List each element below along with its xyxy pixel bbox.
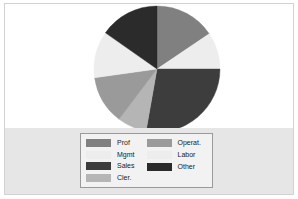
legend-item-sales: Sales (86, 162, 147, 172)
legend-swatch-prof (86, 139, 111, 147)
pie-chart-screenshot: Prof Mgmt Sales Cler. Operat. (0, 0, 298, 199)
legend-swatch-sales (86, 162, 111, 170)
legend-item-cler: Cler. (86, 173, 147, 183)
legend-item-prof: Prof (86, 138, 147, 148)
legend-swatch-cler (86, 174, 111, 182)
legend-columns: Prof Mgmt Sales Cler. Operat. (86, 138, 207, 183)
legend-label-cler: Cler. (117, 174, 131, 182)
legend-item-other: Other (147, 162, 208, 172)
legend-label-labor: Labor (178, 151, 196, 159)
legend-item-labor: Labor (147, 150, 208, 160)
legend-column-right: Operat. Labor Other (147, 138, 208, 183)
legend-swatch-labor (147, 151, 172, 159)
legend-label-other: Other (178, 163, 196, 171)
legend-item-mgmt: Mgmt (86, 150, 147, 160)
legend-label-mgmt: Mgmt (117, 151, 135, 159)
legend-swatch-operat (147, 139, 172, 147)
legend-item-operat: Operat. (147, 138, 208, 148)
pie-slice-sales (146, 69, 220, 128)
pie-chart (93, 5, 221, 128)
pie-svg (93, 5, 221, 128)
legend-label-operat: Operat. (178, 139, 201, 147)
pie-slice-group (94, 6, 220, 128)
legend-column-left: Prof Mgmt Sales Cler. (86, 138, 147, 183)
legend-label-sales: Sales (117, 162, 135, 170)
legend-swatch-other (147, 163, 172, 171)
plot-area (5, 4, 293, 128)
legend-label-prof: Prof (117, 139, 130, 147)
chart-legend: Prof Mgmt Sales Cler. Operat. (80, 133, 213, 188)
legend-swatch-mgmt (86, 151, 111, 159)
